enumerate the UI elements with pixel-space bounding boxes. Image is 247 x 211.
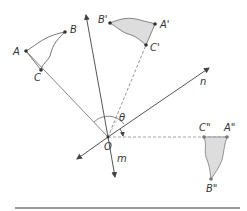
label-m: m xyxy=(117,153,127,164)
point-b-prime xyxy=(108,21,112,25)
point-a xyxy=(24,49,28,53)
angle-theta-arc xyxy=(120,129,123,136)
label-a-double-prime: A" xyxy=(223,122,235,133)
label-b-prime: B' xyxy=(98,14,108,25)
point-b xyxy=(63,30,67,34)
label-c-prime: C' xyxy=(150,42,160,53)
ray-o-to-a xyxy=(26,51,108,137)
point-b-double-prime xyxy=(209,177,213,181)
dashed-o-to-c-prime xyxy=(108,45,146,137)
label-theta: θ xyxy=(119,112,125,123)
point-c-prime xyxy=(144,43,148,47)
line-n-upper xyxy=(108,68,209,137)
point-a-prime xyxy=(153,22,157,26)
figure-a-prime-b-prime-c-prime xyxy=(110,18,155,45)
label-b: B xyxy=(70,24,77,35)
label-b-double-prime: B" xyxy=(206,183,217,194)
diagram-canvas: A B C B' A' C' C" A" B" O m n θ xyxy=(0,0,247,211)
label-a-prime: A' xyxy=(159,19,170,30)
label-c-double-prime: C" xyxy=(199,122,211,133)
label-a: A xyxy=(12,46,20,57)
label-n: n xyxy=(200,76,206,87)
point-c-double-prime xyxy=(202,135,206,139)
label-c: C xyxy=(34,72,41,83)
label-o: O xyxy=(104,141,112,152)
figure-a-double-prime xyxy=(204,137,227,179)
point-a-double-prime xyxy=(225,135,229,139)
figure-abc xyxy=(26,32,65,70)
point-o xyxy=(107,136,110,139)
line-m-upper xyxy=(86,15,108,137)
reflection-rotation-diagram: A B C B' A' C' C" A" B" O m n θ xyxy=(0,0,247,211)
